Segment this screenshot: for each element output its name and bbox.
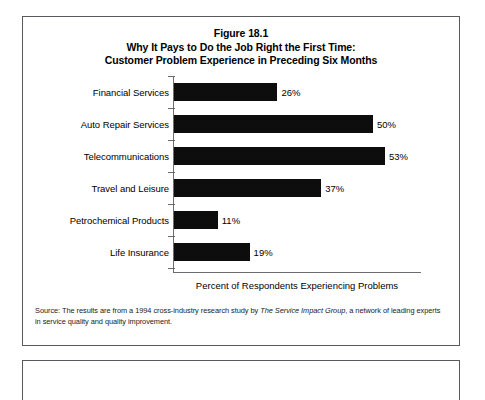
bar-value-label: 50%: [377, 118, 396, 129]
bar-category-label: Travel and Leisure: [92, 182, 169, 193]
figure-title-line-3: Customer Problem Experience in Preceding…: [23, 54, 459, 68]
bar-row: Telecommunications53%: [23, 147, 459, 165]
bar-rect: [174, 83, 277, 101]
bar-value-label: 11%: [222, 214, 240, 225]
bar-rect: [174, 243, 250, 261]
bar-chart-plot-area: Financial Services26%Auto Repair Service…: [23, 77, 459, 283]
bar-value-label: 37%: [325, 182, 344, 193]
bar-row: Auto Repair Services50%: [23, 115, 459, 133]
bar-row: Financial Services26%: [23, 83, 459, 101]
bar-category-label: Petrochemical Products: [70, 214, 169, 225]
bar-category-label: Financial Services: [93, 86, 169, 97]
bar-row: Travel and Leisure37%: [23, 179, 459, 197]
y-axis-tick: [168, 76, 175, 77]
bar-rect: [174, 147, 385, 165]
bar-value-label: 53%: [389, 150, 408, 161]
bar-category-label: Life Insurance: [110, 246, 169, 257]
source-note-italic: The Service Impact Group: [260, 306, 345, 315]
bar-rect: [174, 211, 218, 229]
bar-row: Life Insurance19%: [23, 243, 459, 261]
figure-frame: Figure 18.1 Why It Pays to Do the Job Ri…: [22, 16, 460, 346]
y-axis-tick: [168, 204, 175, 205]
y-axis-tick: [168, 172, 175, 173]
bar-value-label: 26%: [281, 86, 300, 97]
y-axis-tick: [168, 236, 175, 237]
bar-row: Petrochemical Products11%: [23, 211, 459, 229]
bar-category-label: Auto Repair Services: [81, 118, 169, 129]
x-axis-title: Percent of Respondents Experiencing Prob…: [173, 280, 421, 291]
figure-title-line-1: Figure 18.1: [23, 27, 459, 41]
bar-value-label: 19%: [254, 246, 273, 257]
y-axis-tick: [168, 108, 175, 109]
x-axis-line: [173, 272, 421, 273]
source-note-prefix: Source: The results are from a 1994 cros…: [35, 306, 260, 315]
bar-rect: [174, 179, 321, 197]
figure-title-line-2: Why It Pays to Do the Job Right the Firs…: [23, 41, 459, 55]
source-note: Source: The results are from a 1994 cros…: [35, 306, 447, 327]
secondary-frame-partial: [22, 360, 460, 400]
y-axis-tick: [168, 140, 175, 141]
bar-rect: [174, 115, 373, 133]
bar-category-label: Telecommunications: [84, 150, 169, 161]
y-axis-tick: [168, 268, 175, 269]
figure-title: Figure 18.1 Why It Pays to Do the Job Ri…: [23, 17, 459, 68]
